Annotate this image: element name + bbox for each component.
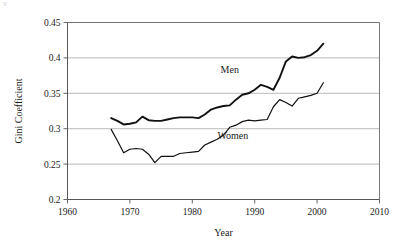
y-tick-label: 0.25 bbox=[44, 160, 61, 170]
y-tick-label: 0.4 bbox=[49, 53, 61, 63]
y-tick-label: 0.45 bbox=[44, 18, 61, 28]
series-annotation-women: Women bbox=[217, 130, 248, 141]
data-series-group bbox=[111, 44, 323, 163]
series-annotation-men: Men bbox=[221, 64, 239, 75]
y-axis-title: Gini Coefficient bbox=[13, 78, 24, 143]
series-line-women bbox=[111, 83, 323, 163]
gini-coefficient-line-chart: 196019701980199020002010 0.20.250.30.350… bbox=[0, 0, 406, 246]
x-axis-title: Year bbox=[214, 227, 233, 238]
x-tick-label: 1990 bbox=[245, 207, 264, 217]
x-tick-label: 2000 bbox=[308, 207, 327, 217]
plot-frame bbox=[68, 23, 380, 200]
chart-figure: v 196019701980199020002010 0.20.250.30.3… bbox=[0, 0, 406, 246]
x-tick-label: 2010 bbox=[370, 207, 389, 217]
series-line-men bbox=[111, 44, 323, 125]
y-axis-ticks: 0.20.250.30.350.40.45 bbox=[44, 18, 68, 205]
x-axis-ticks: 196019701980199020002010 bbox=[58, 200, 389, 217]
y-tick-label: 0.3 bbox=[49, 124, 61, 134]
y-tick-label: 0.35 bbox=[44, 89, 61, 99]
x-tick-label: 1980 bbox=[183, 207, 202, 217]
x-tick-label: 1960 bbox=[58, 207, 77, 217]
gridlines-group bbox=[68, 23, 380, 200]
y-tick-label: 0.2 bbox=[49, 195, 61, 205]
x-tick-label: 1970 bbox=[120, 207, 139, 217]
